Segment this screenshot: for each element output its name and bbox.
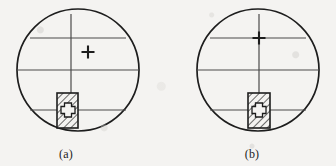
panel-caption-b: (b) (168, 147, 336, 162)
diagram-panel-a: (a) (0, 0, 168, 166)
hatched-box-a (57, 93, 78, 128)
diagram-b-canvas (168, 0, 336, 140)
diagram-a-canvas (0, 0, 168, 140)
upper-cross-b (253, 32, 266, 45)
panel-caption-a: (a) (0, 147, 150, 162)
figure-root: (a) (0, 0, 336, 166)
diagram-panel-b: (b) (168, 0, 336, 166)
hatched-box-b (248, 93, 270, 128)
upper-cross-a (82, 46, 95, 59)
